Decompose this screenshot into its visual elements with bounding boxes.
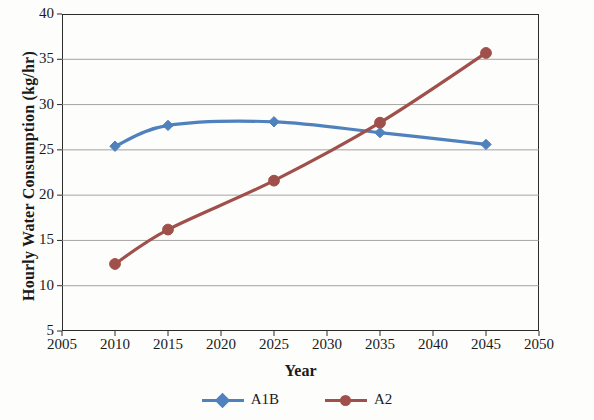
data-point-marker	[375, 117, 386, 128]
x-tick-label: 2015	[140, 336, 196, 352]
x-axis-title: Year	[62, 362, 539, 380]
legend-key-circle-icon	[325, 393, 367, 407]
y-tick-label: 20	[8, 187, 54, 202]
plot-canvas	[62, 14, 539, 331]
legend-item-a1b[interactable]: A1B	[202, 392, 279, 407]
x-tick-label: 2025	[246, 336, 302, 352]
series-a2	[110, 48, 492, 270]
data-point-marker	[269, 117, 279, 127]
data-point-marker	[481, 139, 491, 149]
data-point-marker	[269, 175, 280, 186]
x-tick-label: 2010	[87, 336, 143, 352]
y-tick-label: 15	[8, 232, 54, 247]
chart-legend: A1BA2	[0, 392, 594, 407]
x-tick-label: 2050	[511, 336, 567, 352]
y-tick-label: 40	[8, 6, 54, 21]
line-chart: Hourly Water Consumption (kg/hr) 5101520…	[0, 0, 594, 420]
y-tick-label: 25	[8, 142, 54, 157]
y-tick-label: 30	[8, 97, 54, 112]
series-a1b	[110, 117, 491, 152]
data-point-marker	[110, 259, 121, 270]
legend-item-a2[interactable]: A2	[325, 392, 392, 407]
x-tick-label: 2005	[34, 336, 90, 352]
x-axis-tick-labels: 2005201020152020202520302035204020452050	[0, 336, 594, 356]
series-layer	[110, 48, 492, 270]
legend-key-diamond-icon	[202, 393, 244, 407]
y-tick-label: 35	[8, 51, 54, 66]
legend-key-marker	[340, 395, 351, 406]
data-point-marker	[163, 120, 173, 130]
data-point-marker	[163, 224, 174, 235]
x-tick-label: 2020	[193, 336, 249, 352]
legend-key-marker	[214, 392, 230, 408]
x-tick-label: 2030	[299, 336, 355, 352]
data-point-marker	[375, 127, 385, 137]
data-point-marker	[481, 48, 492, 59]
y-axis-tick-labels: 510152025303540	[8, 0, 54, 420]
x-tick-label: 2035	[352, 336, 408, 352]
legend-label: A2	[374, 392, 392, 407]
gridlines	[57, 14, 539, 336]
x-tick-label: 2045	[458, 336, 514, 352]
legend-label: A1B	[251, 392, 279, 407]
y-tick-label: 10	[8, 278, 54, 293]
x-tick-label: 2040	[405, 336, 461, 352]
